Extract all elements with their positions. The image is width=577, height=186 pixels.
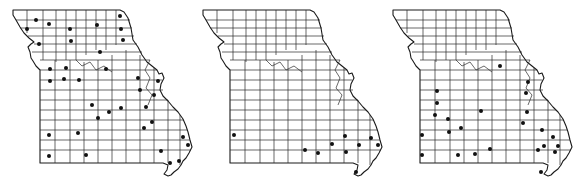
occurrence-dot: [62, 77, 66, 81]
occurrence-dot: [48, 67, 52, 71]
occurrence-dot: [98, 50, 102, 54]
occurrence-dot: [344, 150, 348, 154]
occurrence-dot: [303, 148, 307, 152]
occurrence-dot: [433, 113, 437, 117]
occurrence-dot: [69, 39, 73, 43]
occurrence-dot: [420, 133, 424, 137]
occurrence-dot: [144, 105, 148, 109]
occurrence-dot: [435, 101, 439, 105]
occurrence-dot: [138, 88, 142, 92]
occurrence-dot: [343, 134, 347, 138]
map-3-panel: [393, 10, 572, 176]
occurrence-dot: [136, 76, 140, 80]
occurrence-dot: [357, 143, 361, 147]
occurrence-dot: [25, 27, 29, 31]
occurrence-dot: [459, 126, 463, 130]
occurrence-dot: [68, 27, 72, 31]
occurrence-dot: [48, 79, 52, 83]
occurrence-dot: [525, 110, 529, 114]
occurrence-dot: [524, 91, 528, 95]
occurrence-dot: [376, 143, 380, 147]
occurrence-dot: [119, 27, 123, 31]
occurrence-dot: [488, 147, 492, 151]
occurrence-dot: [521, 121, 525, 125]
occurrence-dot: [84, 153, 88, 157]
occurrence-dot: [177, 159, 181, 163]
occurrence-dot: [330, 142, 334, 146]
occurrence-dot: [498, 64, 502, 68]
occurrence-dot: [556, 144, 560, 148]
maps-canvas: [0, 0, 577, 186]
occurrence-dot: [446, 117, 450, 121]
missouri-county-map: [203, 10, 382, 176]
occurrence-dot: [47, 154, 51, 158]
occurrence-dot: [473, 152, 477, 156]
missouri-county-map: [13, 10, 192, 176]
occurrence-dot: [186, 143, 190, 147]
occurrence-dot: [316, 151, 320, 155]
occurrence-dot: [539, 170, 543, 174]
occurrence-dot: [150, 120, 154, 124]
occurrence-dot: [142, 126, 146, 130]
missouri-county-map: [393, 10, 572, 176]
occurrence-dot: [34, 18, 38, 22]
occurrence-dot: [540, 128, 544, 132]
map-2-panel: [203, 10, 382, 176]
occurrence-dot: [435, 89, 439, 93]
distribution-maps-figure: [0, 0, 577, 186]
occurrence-dot: [536, 148, 540, 152]
occurrence-dot: [168, 161, 172, 165]
occurrence-dot: [181, 135, 185, 139]
occurrence-dot: [156, 79, 160, 83]
occurrence-dot: [96, 116, 100, 120]
occurrence-dot: [479, 109, 483, 113]
occurrence-dot: [420, 153, 424, 157]
occurrence-dot: [47, 22, 51, 26]
occurrence-dot: [104, 67, 108, 71]
occurrence-dot: [118, 14, 122, 18]
occurrence-dot: [121, 38, 125, 42]
occurrence-dot: [542, 144, 546, 148]
occurrence-dot: [64, 66, 68, 70]
occurrence-dot: [47, 133, 51, 137]
occurrence-dot: [456, 153, 460, 157]
map-1-panel: [13, 10, 192, 176]
occurrence-dot: [37, 42, 41, 46]
occurrence-dot: [232, 133, 236, 137]
occurrence-dot: [90, 103, 94, 107]
occurrence-dot: [95, 23, 99, 27]
occurrence-dot: [119, 106, 123, 110]
occurrence-dot: [447, 130, 451, 134]
occurrence-dot: [369, 136, 373, 140]
occurrence-dot: [553, 150, 557, 154]
occurrence-dot: [77, 78, 81, 82]
occurrence-dot: [152, 93, 156, 97]
occurrence-dot: [159, 149, 163, 153]
occurrence-dot: [107, 110, 111, 114]
occurrence-dot: [354, 170, 358, 174]
occurrence-dot: [76, 131, 80, 135]
occurrence-dot: [551, 135, 555, 139]
occurrence-dot: [526, 80, 530, 84]
